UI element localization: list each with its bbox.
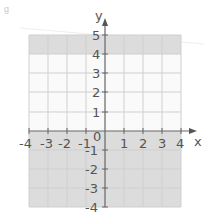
coordinate-plane: y x -4 -3 -2 -1 1 2 3 4 0 5 4 3 2 1 -1 -…	[0, 0, 204, 216]
svg-text:3: 3	[92, 66, 100, 81]
svg-text:2: 2	[92, 85, 100, 100]
origin-label: 0	[93, 129, 101, 144]
svg-text:2: 2	[139, 136, 147, 151]
svg-text:1: 1	[92, 105, 100, 120]
svg-text:1: 1	[120, 136, 128, 151]
svg-text:3: 3	[158, 136, 166, 151]
svg-text:-1: -1	[85, 143, 98, 158]
y-axis-arrow-icon	[102, 18, 108, 26]
svg-text:-2: -2	[85, 162, 98, 177]
y-axis-label: y	[95, 8, 103, 23]
svg-text:-2: -2	[58, 136, 71, 151]
svg-text:-4: -4	[85, 200, 98, 215]
svg-text:4: 4	[92, 47, 100, 62]
svg-text:5: 5	[92, 28, 100, 43]
svg-text:-3: -3	[85, 181, 98, 196]
svg-text:4: 4	[176, 136, 184, 151]
svg-text:-3: -3	[40, 136, 53, 151]
x-axis-label: x	[194, 134, 202, 149]
svg-text:-4: -4	[19, 136, 32, 151]
